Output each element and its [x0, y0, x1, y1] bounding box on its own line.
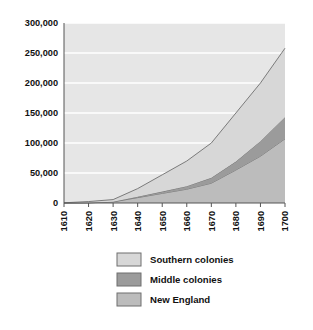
legend-label: Southern colonies	[150, 254, 234, 265]
legend-item: Southern colonies	[117, 253, 234, 266]
stacked-area-chart: 050,000100,000150,000200,000250,000300,0…	[0, 0, 313, 330]
x-axis-tick-label: 1630	[109, 211, 119, 231]
x-axis-tick-label: 1680	[231, 211, 241, 231]
y-axis-tick-label: 100,000	[25, 138, 58, 148]
x-axis-tick-label: 1700	[280, 211, 290, 231]
x-axis-tick-label: 1640	[133, 211, 143, 231]
legend-item: New England	[117, 293, 210, 306]
x-axis-tick-label: 1650	[158, 211, 168, 231]
x-axis-tick-label: 1660	[182, 211, 192, 231]
x-axis-tick-label: 1670	[207, 211, 217, 231]
y-axis-tick-label: 200,000	[25, 78, 58, 88]
legend-swatch	[117, 293, 141, 306]
x-axis-tick-label: 1690	[256, 211, 266, 231]
chart-canvas: 050,000100,000150,000200,000250,000300,0…	[0, 0, 313, 330]
x-axis-tick-label: 1620	[84, 211, 94, 231]
y-axis-tick-label: 300,000	[25, 18, 58, 28]
y-axis-tick-label: 150,000	[25, 108, 58, 118]
y-axis-tick-label: 0	[53, 198, 58, 208]
legend-label: New England	[150, 294, 210, 305]
legend-item: Middle colonies	[117, 273, 222, 286]
x-axis-tick-label: 1610	[59, 211, 69, 231]
y-axis-tick-label: 50,000	[30, 168, 58, 178]
y-axis-tick-label: 250,000	[25, 48, 58, 58]
legend-swatch	[117, 273, 141, 286]
legend-label: Middle colonies	[150, 274, 222, 285]
legend-swatch	[117, 253, 141, 266]
